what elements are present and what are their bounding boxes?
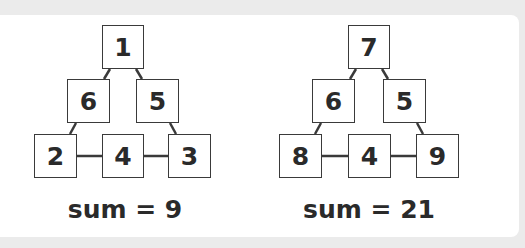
left-middle-left-box: 6 [67, 79, 110, 123]
right-bottom-right-box: 9 [416, 134, 459, 178]
left-bottom-center-box: 4 [102, 134, 144, 178]
number-pyramids: 1 6 5 2 4 3 sum = 9 7 6 5 8 4 9 sum = 21 [0, 0, 525, 248]
right-bottom-center-box: 4 [348, 134, 391, 178]
left-bottom-right-box: 3 [168, 134, 211, 178]
right-sum-label: sum = 21 [269, 195, 469, 224]
right-middle-left-box: 6 [312, 79, 355, 123]
right-top-box: 7 [348, 25, 390, 69]
right-middle-right-box: 5 [383, 79, 426, 123]
left-middle-right-box: 5 [136, 79, 179, 123]
left-top-box: 1 [102, 25, 144, 69]
left-bottom-left-box: 2 [34, 134, 77, 178]
right-bottom-left-box: 8 [279, 134, 322, 178]
left-sum-label: sum = 9 [25, 195, 225, 224]
